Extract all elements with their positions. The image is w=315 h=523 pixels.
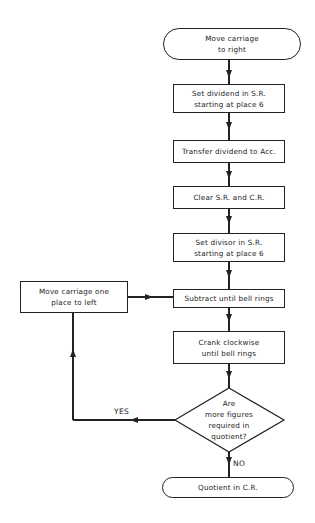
- step-text: Move carriage one: [39, 286, 109, 297]
- decision-text: Are more figures required in quotient?: [189, 398, 269, 442]
- step-text: until bell rings: [199, 348, 260, 359]
- step-text: place to left: [39, 297, 109, 308]
- step-text: Transfer dividend to Acc.: [182, 146, 276, 157]
- end-terminal: Quotient in C.R.: [162, 477, 294, 498]
- step-text: Clear S.R. and C.R.: [193, 192, 264, 203]
- decision-line-4: quotient?: [189, 431, 269, 442]
- no-label: NO: [233, 459, 245, 468]
- step-text: Set dividend in S.R.: [192, 88, 266, 99]
- yes-label: YES: [114, 407, 129, 416]
- decision-line-3: required in: [189, 420, 269, 431]
- step-text: starting at place 6: [192, 99, 266, 110]
- decision-line-2: more figures: [189, 409, 269, 420]
- step-crank-clockwise: Crank clockwise until bell rings: [173, 331, 285, 364]
- step-text: Set divisor in S.R.: [194, 237, 264, 248]
- step-set-dividend: Set dividend in S.R. starting at place 6: [173, 84, 285, 113]
- decision-line-1: Are: [189, 398, 269, 409]
- step-subtract: Subtract until bell rings: [173, 289, 285, 308]
- start-line-1: Move carriage: [205, 33, 259, 44]
- step-text: Subtract until bell rings: [184, 293, 273, 304]
- step-set-divisor: Set divisor in S.R. starting at place 6: [173, 233, 285, 262]
- start-line-2: to right: [205, 44, 259, 55]
- step-text: starting at place 6: [194, 248, 264, 259]
- step-transfer-dividend: Transfer dividend to Acc.: [173, 140, 285, 163]
- step-text: Crank clockwise: [199, 337, 260, 348]
- end-text: Quotient in C.R.: [198, 482, 258, 493]
- step-clear-registers: Clear S.R. and C.R.: [173, 186, 285, 209]
- step-move-carriage-left: Move carriage one place to left: [20, 281, 128, 313]
- start-terminal: Move carriage to right: [163, 28, 301, 60]
